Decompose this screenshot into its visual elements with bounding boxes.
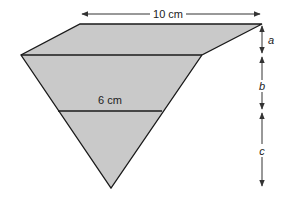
height-a-dimension: a [262, 26, 274, 53]
top-width-label: 10 cm [153, 8, 183, 20]
height-c-label: c [259, 145, 265, 157]
middle-width-label: 6 cm [98, 94, 122, 106]
top-width-dimension: 10 cm [82, 8, 260, 20]
composite-shape [21, 24, 262, 188]
height-a-label: a [268, 34, 274, 46]
height-c-dimension: c [259, 113, 265, 186]
diagram-canvas: 10 cm 6 cm a b c [0, 0, 281, 201]
height-b-label: b [259, 80, 265, 92]
height-b-dimension: b [259, 57, 265, 109]
